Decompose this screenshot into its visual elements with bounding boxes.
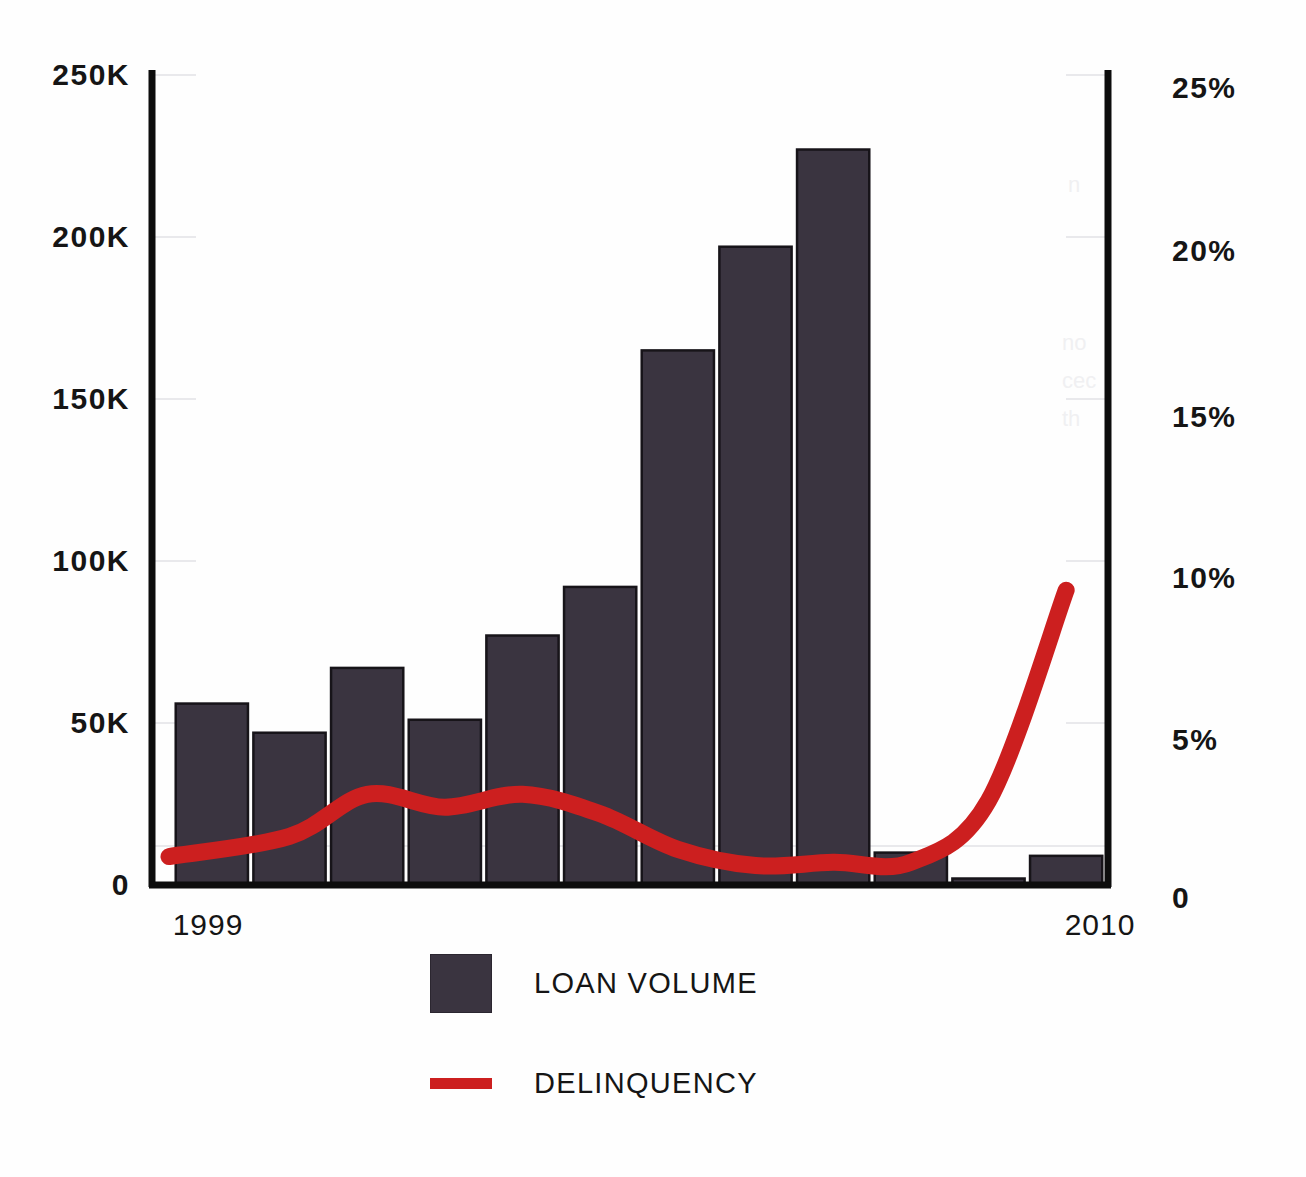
y-axis-right-tick-10pct: 10% bbox=[1172, 563, 1302, 593]
bar-2005 bbox=[642, 350, 714, 885]
y-axis-left-tick-250k: 250K bbox=[20, 60, 130, 90]
right-axis-tick-stubs bbox=[1066, 75, 1110, 723]
bar-2007 bbox=[797, 150, 869, 885]
bar-series-loan-volume bbox=[176, 150, 1103, 885]
bar-2003 bbox=[486, 636, 558, 885]
legend-item-loan-volume[interactable]: LOAN VOLUME bbox=[430, 952, 990, 1014]
bar-2000 bbox=[253, 733, 325, 885]
legend-label-loan-volume: LOAN VOLUME bbox=[534, 967, 758, 1000]
x-axis-tick-2010: 2010 bbox=[1065, 908, 1136, 942]
x-axis-tick-1999: 1999 bbox=[173, 908, 244, 942]
y-axis-right-tick-15pct: 15% bbox=[1172, 402, 1302, 432]
legend-swatch-line-icon bbox=[430, 1078, 492, 1089]
y-axis-left-tick-0: 0 bbox=[20, 870, 130, 900]
y-axis-left-tick-100k: 100K bbox=[20, 546, 130, 576]
bar-2010 bbox=[1030, 856, 1102, 885]
bar-2006 bbox=[719, 247, 791, 885]
legend-label-delinquency: DELINQUENCY bbox=[534, 1067, 758, 1100]
y-axis-left-tick-200k: 200K bbox=[20, 222, 130, 252]
chart-legend: LOAN VOLUME DELINQUENCY bbox=[430, 952, 990, 1114]
legend-swatch-box-icon bbox=[430, 954, 492, 1013]
bar-2004 bbox=[564, 587, 636, 885]
y-axis-right-tick-0: 0 bbox=[1172, 883, 1302, 913]
bar-2001 bbox=[331, 668, 403, 885]
chart-container: n no cec th bbox=[0, 0, 1306, 1177]
legend-item-delinquency[interactable]: DELINQUENCY bbox=[430, 1052, 990, 1114]
y-axis-left-tick-50k: 50K bbox=[20, 708, 130, 738]
y-axis-right-tick-5pct: 5% bbox=[1172, 725, 1302, 755]
y-axis-right-tick-20pct: 20% bbox=[1172, 236, 1302, 266]
y-axis-right-tick-25pct: 25% bbox=[1172, 73, 1302, 103]
y-axis-left-tick-150k: 150K bbox=[20, 384, 130, 414]
